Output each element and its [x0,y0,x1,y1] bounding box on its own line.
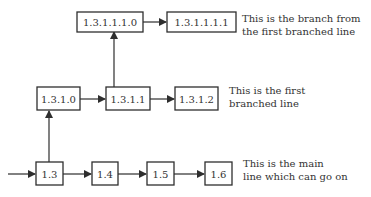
node-1-3-1-1-1-0: 1.3.1.1.1.0 [77,12,143,32]
node-label: 1.3 [42,169,58,180]
node-label: 1.3.1.2 [179,94,214,105]
annotation-line: This is the first [229,84,305,97]
node-label: 1.4 [97,169,113,180]
node-1-4: 1.4 [92,162,118,185]
node-1-6: 1.6 [205,162,232,185]
node-1-5: 1.5 [147,162,174,185]
node-label: 1.5 [153,169,169,180]
annotation-first-branch: This is the first branched line [229,84,305,110]
node-1-3-1-1: 1.3.1.1 [106,87,150,110]
node-1-3-1-1-1-1: 1.3.1.1.1.1 [167,12,236,32]
annotation-line: line which can go on [243,170,348,183]
node-label: 1.6 [211,169,227,180]
annotation-line: This is the branch from [242,12,360,25]
node-label: 1.3.1.0 [41,94,76,105]
annotation-line: This is the main [243,157,348,170]
node-label: 1.3.1.1.1.0 [83,17,137,28]
annotation-main-line: This is the main line which can go on [243,157,348,183]
node-label: 1.3.1.1 [111,94,146,105]
node-1-3: 1.3 [36,162,63,185]
annotation-line: branched line [229,97,305,110]
annotation-branch-from-branch: This is the branch from the first branch… [242,12,360,38]
node-1-3-1-2: 1.3.1.2 [175,87,218,110]
node-1-3-1-0: 1.3.1.0 [37,87,80,110]
node-label: 1.3.1.1.1.1 [174,17,228,28]
annotation-line: the first branched line [242,25,360,38]
